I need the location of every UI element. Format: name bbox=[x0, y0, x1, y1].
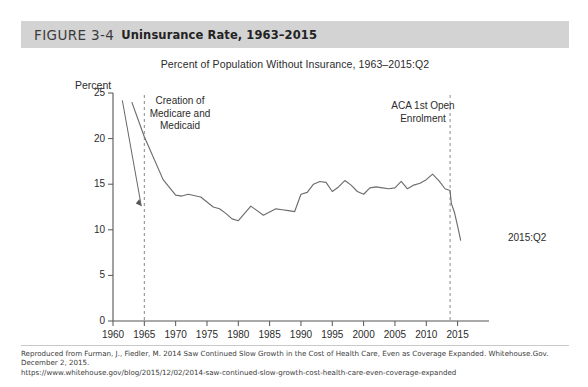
figure-source-note: Reproduced from Furman, J., Fiedler, M. … bbox=[21, 349, 573, 377]
y-tick-label: 20 bbox=[79, 133, 105, 144]
figure-page: FIGURE 3-4 Uninsurance Rate, 1963–2015 P… bbox=[0, 0, 588, 387]
chart-canvas: Percent of Population Without Insurance,… bbox=[21, 48, 569, 345]
figure-body: Percent of Population Without Insurance,… bbox=[21, 48, 569, 345]
y-tick-label: 5 bbox=[79, 269, 105, 280]
chart-title: Percent of Population Without Insurance,… bbox=[21, 58, 569, 70]
annotation-medicare-medicaid: Creation of Medicare and Medicaid bbox=[134, 95, 226, 133]
annotation-end-point-label: 2015:Q2 bbox=[508, 232, 546, 243]
figure-number: FIGURE 3-4 bbox=[34, 27, 114, 43]
figure-title: Uninsurance Rate, 1963–2015 bbox=[121, 28, 317, 42]
source-url: https://www.whitehouse.gov/blog/2015/12/… bbox=[21, 368, 573, 377]
source-citation: Reproduced from Furman, J., Fiedler, M. … bbox=[21, 349, 573, 368]
y-tick-label: 10 bbox=[79, 224, 105, 235]
y-tick-label: 0 bbox=[79, 315, 105, 326]
footer-divider bbox=[21, 345, 569, 346]
y-tick-label: 25 bbox=[79, 87, 105, 98]
figure-header-band: FIGURE 3-4 Uninsurance Rate, 1963–2015 bbox=[21, 21, 569, 48]
y-tick-label: 15 bbox=[79, 178, 105, 189]
annotation-aca-open-enrolment: ACA 1st Open Enrolment bbox=[378, 100, 468, 125]
x-tick-label: 2015 bbox=[438, 329, 478, 340]
